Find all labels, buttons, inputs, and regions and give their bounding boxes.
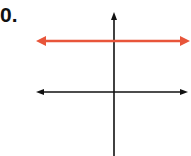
arrow-up-icon (111, 12, 117, 20)
y-axis (111, 12, 117, 156)
x-axis (36, 89, 188, 95)
horizontal-line-red (36, 36, 190, 46)
coordinate-graph (0, 0, 191, 156)
arrow-left-icon (36, 89, 44, 95)
arrow-right-icon (180, 36, 190, 46)
arrow-left-icon (36, 36, 46, 46)
arrow-right-icon (180, 89, 188, 95)
